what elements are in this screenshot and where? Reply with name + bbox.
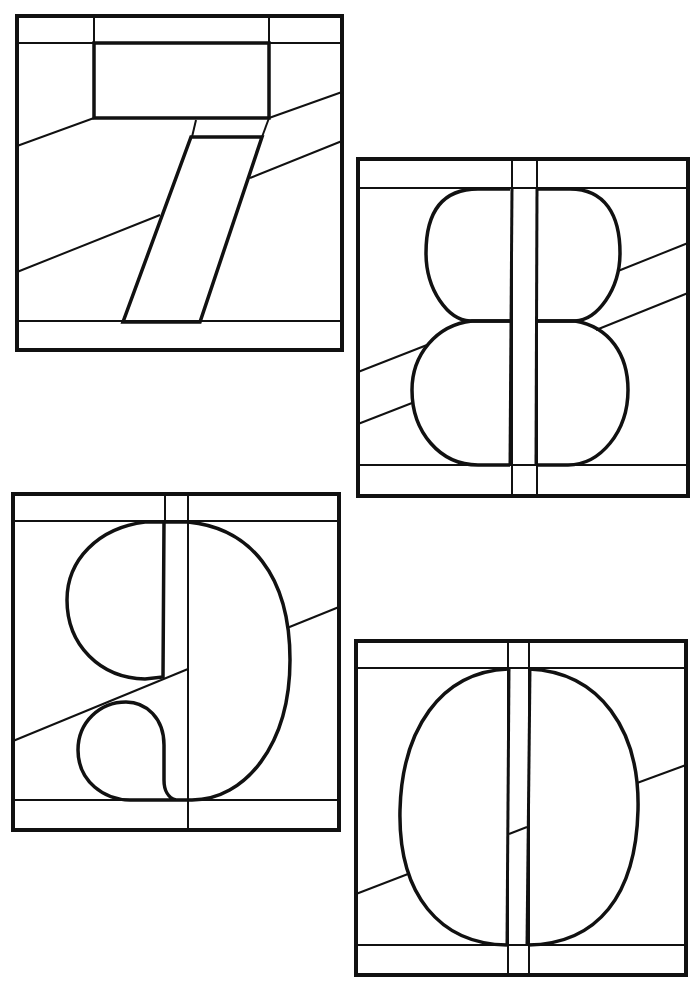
digit-0-left-half — [400, 669, 508, 945]
digit-7-top-bar — [94, 43, 269, 118]
digit-9-right-bowl — [188, 522, 290, 800]
digit-9-tail-loop — [78, 702, 188, 800]
digit-8-bottom-right-loop — [537, 321, 628, 465]
panel-digit-9 — [13, 494, 339, 830]
coloring-page — [0, 0, 699, 984]
digit-9-upper-loop — [67, 521, 188, 679]
digit-8-top-right-loop — [537, 189, 620, 321]
digit-8-top-left-loop — [426, 189, 510, 321]
panel-digit-0 — [356, 641, 686, 975]
panel-digit-8 — [358, 159, 688, 496]
digit-8-bottom-left-loop — [412, 321, 510, 465]
panel-digit-7 — [17, 16, 342, 350]
digit-7-stem — [123, 137, 262, 322]
digit-0-right-half — [528, 669, 638, 945]
